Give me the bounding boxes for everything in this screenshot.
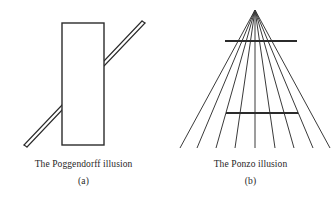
panel-ponzo: The Ponzo illusion (b) <box>167 0 334 198</box>
caption-sublabel-poggendorff: (a) <box>0 175 167 188</box>
occluding-rectangle <box>62 23 104 145</box>
poggendorff-diagram <box>0 0 167 155</box>
illusions-figure: The Poggendorff illusion (a) The Ponzo i… <box>0 0 334 198</box>
caption-title-ponzo: The Ponzo illusion <box>167 158 334 171</box>
caption-sublabel-ponzo: (b) <box>167 175 334 188</box>
radiating-lines-group <box>180 10 330 148</box>
ponzo-diagram <box>167 0 334 155</box>
diagonal-bar-left-segment <box>24 104 63 147</box>
caption-title-poggendorff: The Poggendorff illusion <box>0 158 167 171</box>
diagonal-bar-right-segment <box>104 21 145 66</box>
panel-poggendorff: The Poggendorff illusion (a) <box>0 0 167 198</box>
